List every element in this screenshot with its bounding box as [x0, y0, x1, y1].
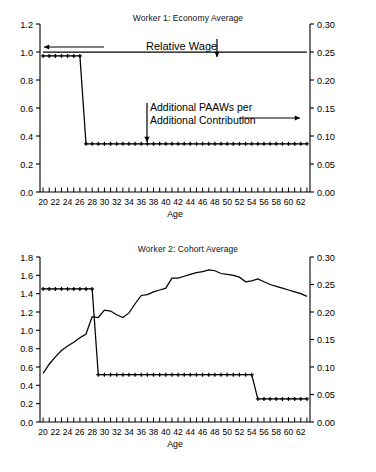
svg-text:0.05: 0.05 [317, 160, 335, 170]
svg-text:26: 26 [75, 427, 85, 437]
svg-text:30: 30 [100, 427, 110, 437]
svg-text:24: 24 [63, 427, 73, 437]
svg-text:44: 44 [186, 427, 196, 437]
svg-text:Age: Age [167, 439, 183, 449]
additional-paaws-label-line2: Additional Contribution [150, 114, 256, 126]
svg-text:42: 42 [173, 427, 183, 437]
svg-text:1.2: 1.2 [20, 20, 33, 30]
svg-text:0.10: 0.10 [317, 363, 335, 373]
svg-text:1.8: 1.8 [20, 253, 33, 263]
svg-text:28: 28 [87, 197, 97, 207]
svg-text:22: 22 [51, 427, 61, 437]
svg-text:48: 48 [210, 427, 220, 437]
svg-text:24: 24 [63, 197, 73, 207]
svg-text:0.00: 0.00 [317, 188, 335, 198]
svg-text:Age: Age [167, 209, 183, 219]
svg-text:54: 54 [247, 427, 257, 437]
svg-text:1.6: 1.6 [20, 271, 33, 281]
svg-text:56: 56 [259, 427, 269, 437]
svg-text:34: 34 [124, 197, 134, 207]
svg-text:0.05: 0.05 [317, 390, 335, 400]
additional-paaws-label-line1: Additional PAAWs per [150, 101, 252, 113]
svg-text:30: 30 [100, 197, 110, 207]
svg-text:50: 50 [222, 427, 232, 437]
svg-text:0.6: 0.6 [20, 363, 33, 373]
svg-text:60: 60 [284, 427, 294, 437]
svg-text:0.30: 0.30 [317, 20, 335, 30]
relative-wage-label: Relative Wage [146, 40, 217, 52]
figure-page: Worker 1: Economy Average 0.00.20.40.60.… [0, 0, 376, 472]
svg-text:34: 34 [124, 427, 134, 437]
svg-text:0.4: 0.4 [20, 381, 33, 391]
svg-text:38: 38 [149, 197, 159, 207]
svg-text:0.0: 0.0 [20, 418, 33, 428]
svg-text:40: 40 [161, 427, 171, 437]
svg-text:1.2: 1.2 [20, 308, 33, 318]
svg-text:52: 52 [235, 197, 245, 207]
svg-text:0.15: 0.15 [317, 335, 335, 345]
svg-text:0.20: 0.20 [317, 308, 335, 318]
svg-text:0.0: 0.0 [20, 188, 33, 198]
svg-text:60: 60 [284, 197, 294, 207]
svg-text:0.4: 0.4 [20, 132, 33, 142]
svg-text:56: 56 [259, 197, 269, 207]
svg-text:1.4: 1.4 [20, 289, 33, 299]
svg-text:62: 62 [296, 197, 306, 207]
svg-text:0.15: 0.15 [317, 104, 335, 114]
svg-text:46: 46 [198, 427, 208, 437]
chart-panel-worker-2: Worker 2: Cohort Average 0.00.20.40.60.8… [0, 240, 376, 472]
svg-text:58: 58 [271, 427, 281, 437]
svg-text:62: 62 [296, 427, 306, 437]
svg-text:32: 32 [112, 197, 122, 207]
svg-text:42: 42 [173, 197, 183, 207]
svg-text:22: 22 [51, 197, 61, 207]
svg-text:20: 20 [38, 197, 48, 207]
svg-text:26: 26 [75, 197, 85, 207]
svg-text:1.0: 1.0 [20, 326, 33, 336]
svg-text:48: 48 [210, 197, 220, 207]
svg-text:40: 40 [161, 197, 171, 207]
svg-text:0.00: 0.00 [317, 418, 335, 428]
chart-svg-worker-2: 0.00.20.40.60.81.01.21.41.61.80.000.050.… [0, 240, 376, 472]
svg-text:0.8: 0.8 [20, 76, 33, 86]
svg-text:38: 38 [149, 427, 159, 437]
svg-text:0.2: 0.2 [20, 399, 33, 409]
svg-text:58: 58 [271, 197, 281, 207]
svg-text:54: 54 [247, 197, 257, 207]
chart-panel-worker-1: Worker 1: Economy Average 0.00.20.40.60.… [0, 0, 376, 240]
svg-text:0.25: 0.25 [317, 280, 335, 290]
svg-text:46: 46 [198, 197, 208, 207]
svg-text:36: 36 [136, 197, 146, 207]
svg-text:52: 52 [235, 427, 245, 437]
svg-text:1.0: 1.0 [20, 48, 33, 58]
svg-text:0.20: 0.20 [317, 76, 335, 86]
svg-text:0.8: 0.8 [20, 344, 33, 354]
svg-text:0.30: 0.30 [317, 253, 335, 263]
svg-text:44: 44 [186, 197, 196, 207]
svg-text:36: 36 [136, 427, 146, 437]
svg-text:32: 32 [112, 427, 122, 437]
svg-text:0.10: 0.10 [317, 132, 335, 142]
svg-text:50: 50 [222, 197, 232, 207]
svg-text:28: 28 [87, 427, 97, 437]
svg-text:0.25: 0.25 [317, 48, 335, 58]
svg-text:0.2: 0.2 [20, 160, 33, 170]
svg-text:0.6: 0.6 [20, 104, 33, 114]
svg-text:20: 20 [38, 427, 48, 437]
